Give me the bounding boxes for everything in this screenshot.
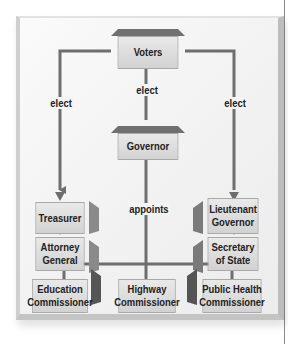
node-attorney-general-line1: Attorney <box>41 241 80 254</box>
node-secretary-of-state-line1: Secretary <box>212 241 255 254</box>
node-lieutenant-governor: LieutenantGovernor <box>208 198 259 234</box>
node-attorney-general: AttorneyGeneral <box>35 237 84 271</box>
node-education-commissioner-line2: Commissioner <box>27 296 93 309</box>
node-public-health-commissioner-line2: Commissioner <box>199 296 265 309</box>
edge-label-elect-center: elect <box>136 84 159 96</box>
node-education-commissioner-line1: Education <box>27 283 93 296</box>
edge-label-appoints: appoints <box>128 203 169 215</box>
node-treasurer-label: Treasurer <box>39 212 82 225</box>
node-secretary-of-state-line2: of State <box>212 254 255 267</box>
node-secretary-of-state: Secretaryof State <box>208 237 259 271</box>
node-highway-commissioner-line2: Commissioner <box>114 296 180 309</box>
node-public-health-commissioner: Public HealthCommissioner <box>202 279 261 313</box>
node-governor: Governor <box>118 133 179 160</box>
node-governor-label: Governor <box>127 140 169 153</box>
node-voters: Voters <box>118 36 179 69</box>
node-highway-commissioner: HighwayCommissioner <box>118 279 175 313</box>
node-attorney-general-line2: General <box>41 254 80 267</box>
node-lieutenant-governor-line1: Lieutenant <box>209 203 257 216</box>
node-public-health-commissioner-line1: Public Health <box>199 283 265 296</box>
node-voters-label: Voters <box>134 46 163 59</box>
edge-label-elect-left: elect <box>50 97 73 109</box>
node-lieutenant-governor-line2: Governor <box>209 216 257 229</box>
node-highway-commissioner-line1: Highway <box>114 283 180 296</box>
node-education-commissioner: EducationCommissioner <box>32 279 88 313</box>
edge-label-elect-right: elect <box>224 97 247 109</box>
node-treasurer: Treasurer <box>35 202 84 234</box>
